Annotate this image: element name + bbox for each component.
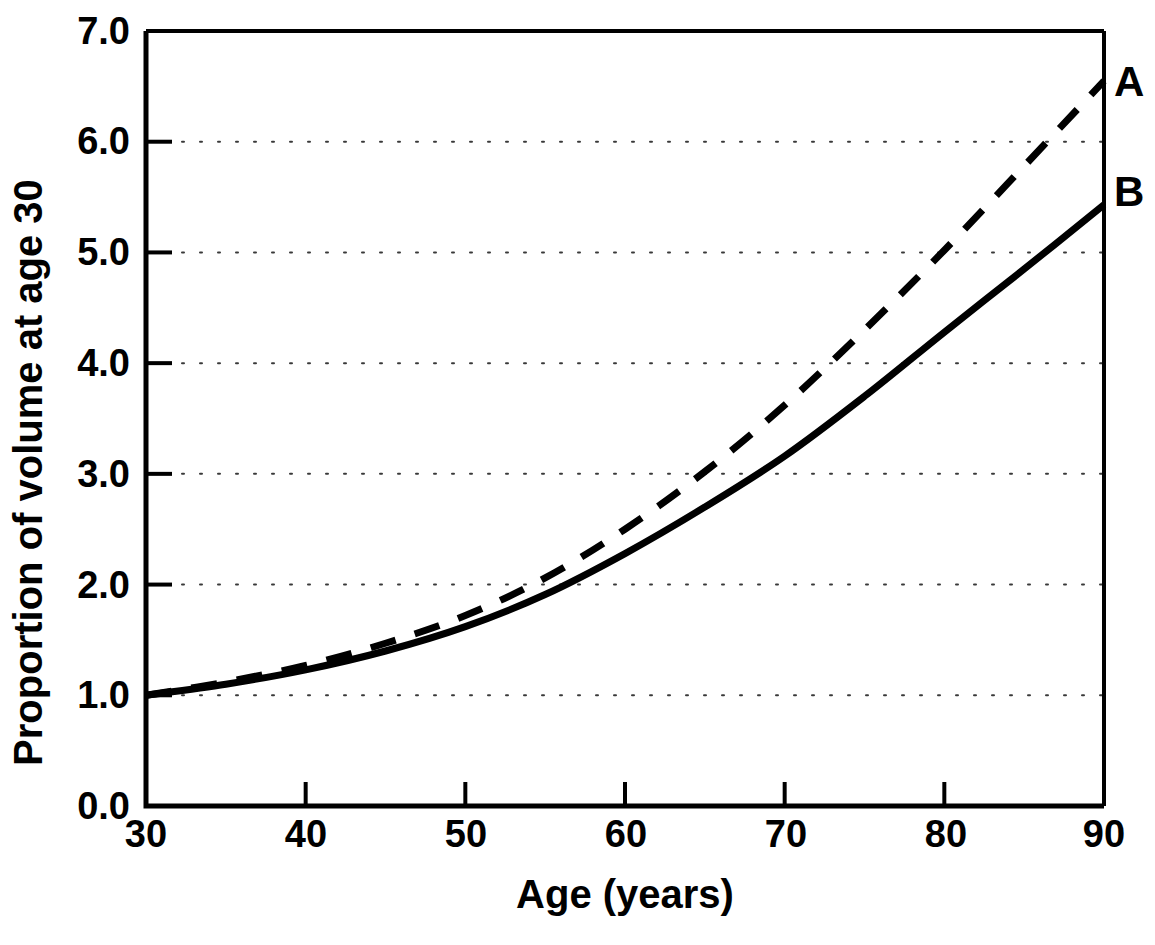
axes-frame [146,31,1104,806]
chart-figure: Proportion of volume at age 30 Age (year… [0,0,1155,945]
curve-A [146,81,1104,695]
data-curves-group [146,81,1104,695]
x-tick-label-80: 80 [896,812,996,856]
x-tick-label-70: 70 [736,812,836,856]
y-tick-label-2: 2.0 [10,563,130,607]
curve-B [146,205,1104,695]
axis-lines [146,31,1104,806]
series-label-b: B [1114,168,1144,216]
y-tick-label-4: 4.0 [10,341,130,385]
x-tick-label-40: 40 [256,812,356,856]
x-tick-label-90: 90 [1054,812,1154,856]
x-axis-title: Age (years) [146,872,1104,917]
y-tick-label-3: 3.0 [10,452,130,496]
plot-area [0,0,1155,945]
y-tick-label-6: 6.0 [10,119,130,163]
x-tick-label-30: 30 [96,812,196,856]
x-tick-label-50: 50 [416,812,516,856]
y-tick-label-1: 1.0 [10,673,130,717]
y-tick-label-7: 7.0 [10,9,130,53]
y-tick-label-5: 5.0 [10,230,130,274]
x-tick-label-60: 60 [576,812,676,856]
tick-marks-group [146,142,944,806]
gridlines-group [146,142,1104,696]
series-label-a: A [1114,58,1144,106]
